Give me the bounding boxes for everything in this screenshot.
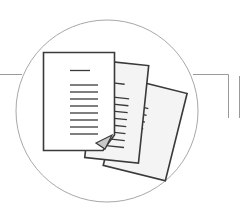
document-page-front	[44, 53, 115, 151]
documents-illustration: Documents	[0, 0, 247, 224]
illustration-canvas	[0, 0, 247, 224]
